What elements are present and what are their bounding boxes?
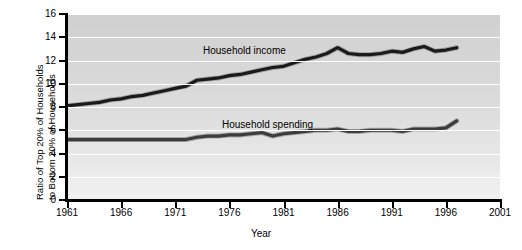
series-label-household-income: Household income bbox=[203, 45, 286, 56]
x-axis-title: Year bbox=[0, 228, 522, 239]
x-tick-label-1971: 1971 bbox=[155, 207, 195, 218]
y-tick-16 bbox=[59, 13, 66, 15]
y-tick-14 bbox=[59, 36, 66, 38]
y-tick-label-16: 16 bbox=[30, 9, 56, 19]
chart-container: Ratio of Top 20% of Households to Bottom… bbox=[0, 0, 522, 250]
y-tick-label-4: 4 bbox=[30, 149, 56, 159]
y-tick-4 bbox=[59, 153, 66, 155]
y-tick-label-2: 2 bbox=[30, 172, 56, 182]
gridline-y-12 bbox=[67, 61, 500, 62]
gridline-y-10 bbox=[67, 84, 500, 85]
y-axis-tick-labels: 0246810121416 bbox=[30, 0, 56, 210]
x-tick-label-2001: 2001 bbox=[480, 207, 520, 218]
y-tick-label-12: 12 bbox=[30, 56, 56, 66]
y-tick-8 bbox=[59, 106, 66, 108]
gridline-y-8 bbox=[67, 107, 500, 108]
y-tick-label-8: 8 bbox=[30, 102, 56, 112]
gridline-y-4 bbox=[67, 154, 500, 155]
x-tick-label-1986: 1986 bbox=[318, 207, 358, 218]
y-tick-0 bbox=[59, 199, 66, 201]
y-tick-label-10: 10 bbox=[30, 79, 56, 89]
y-tick-6 bbox=[59, 129, 66, 131]
gridline-y-16 bbox=[67, 14, 500, 15]
y-tick-2 bbox=[59, 176, 66, 178]
x-tick-label-1996: 1996 bbox=[426, 207, 466, 218]
x-tick-label-1966: 1966 bbox=[101, 207, 141, 218]
gridline-y-6 bbox=[67, 130, 500, 131]
x-tick-label-1991: 1991 bbox=[372, 207, 412, 218]
y-tick-label-14: 14 bbox=[30, 32, 56, 42]
x-tick-label-1976: 1976 bbox=[209, 207, 249, 218]
gridline-y-2 bbox=[67, 177, 500, 178]
gridline-y-14 bbox=[67, 37, 500, 38]
x-tick-label-1961: 1961 bbox=[47, 207, 87, 218]
series-label-household-spending: Household spending bbox=[222, 119, 313, 130]
y-tick-10 bbox=[59, 83, 66, 85]
y-tick-12 bbox=[59, 60, 66, 62]
y-tick-label-0: 0 bbox=[30, 195, 56, 205]
y-tick-label-6: 6 bbox=[30, 125, 56, 135]
x-tick-label-1981: 1981 bbox=[264, 207, 304, 218]
plot-area bbox=[67, 14, 500, 200]
